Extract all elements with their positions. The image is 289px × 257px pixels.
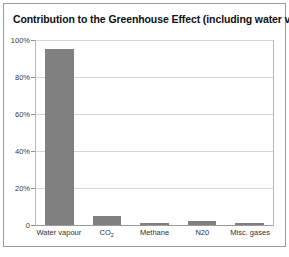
bar	[140, 223, 168, 225]
plot-area: 100%80%60%40%20%0	[35, 40, 274, 226]
bar	[235, 223, 263, 225]
x-label-water-vapour: Water vapour	[35, 228, 83, 237]
figure-frame: Contribution to the Greenhouse Effect (i…	[3, 3, 286, 247]
x-label-misc-gases: Misc. gases	[226, 228, 274, 237]
bar	[93, 216, 121, 225]
bar	[45, 49, 73, 225]
y-tick-label-60: 60%	[15, 110, 36, 119]
y-tick-label-20: 20%	[15, 184, 36, 193]
bar-slot	[131, 40, 178, 225]
x-label-co2-text: CO	[100, 228, 111, 237]
x-label-co2-subscript: 2	[111, 232, 114, 238]
bar-slot	[178, 40, 225, 225]
bar-group	[36, 40, 273, 225]
chart-title: Contribution to the Greenhouse Effect (i…	[13, 13, 285, 26]
chart-screenshot: Contribution to the Greenhouse Effect (i…	[0, 0, 289, 257]
bar	[188, 221, 216, 225]
bar-slot	[36, 40, 83, 225]
x-axis-labels: Water vapour CO2 Methane N20 Misc. gases	[35, 228, 274, 237]
bar-slot	[226, 40, 273, 225]
y-tick-label-40: 40%	[15, 147, 36, 156]
bar-slot	[83, 40, 130, 225]
x-label-methane: Methane	[131, 228, 179, 237]
x-label-co2: CO2	[83, 228, 131, 237]
y-tick-label-100: 100%	[11, 36, 36, 45]
y-tick-label-80: 80%	[15, 73, 36, 82]
x-label-n20: N20	[178, 228, 226, 237]
